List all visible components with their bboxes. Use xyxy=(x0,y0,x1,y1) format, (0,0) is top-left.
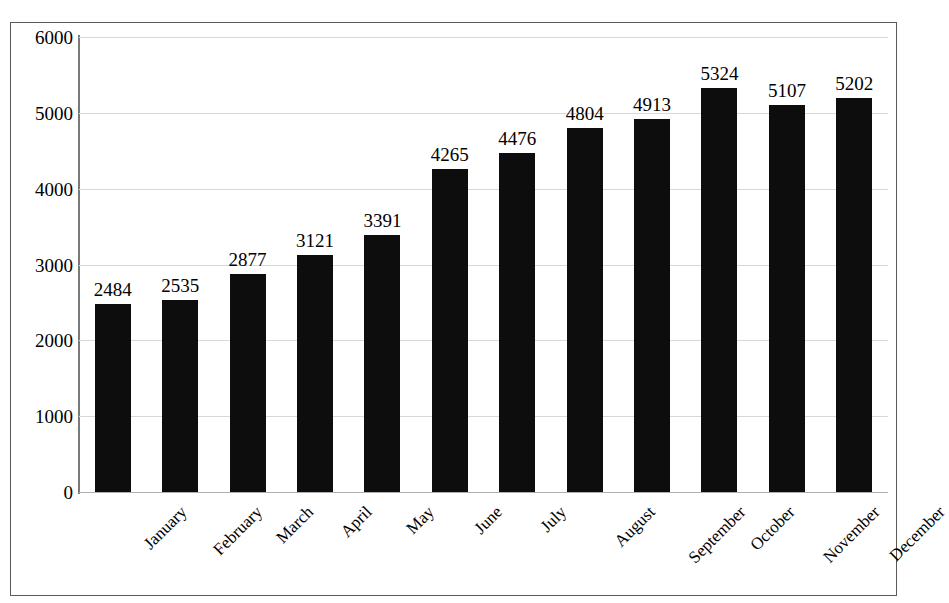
x-axis-tick-label: September xyxy=(685,503,748,566)
bar[interactable] xyxy=(95,304,131,492)
bar-value-label: 5107 xyxy=(768,81,806,100)
bar-value-label: 4804 xyxy=(566,104,604,123)
gridline xyxy=(79,265,888,266)
bar[interactable] xyxy=(567,128,603,492)
plot-area: 2484253528773121339142654476480449135324… xyxy=(79,37,888,492)
bar-value-label: 3391 xyxy=(363,211,401,230)
bar-value-label: 5324 xyxy=(700,64,738,83)
x-axis-tick-labels: JanuaryFebruaryMarchAprilMayJuneJulyAugu… xyxy=(79,497,888,593)
x-axis-tick-label: April xyxy=(337,503,374,540)
bar[interactable] xyxy=(364,235,400,492)
y-axis-tick-label: 4000 xyxy=(11,179,73,198)
x-axis-tick-label: December xyxy=(887,503,948,564)
bar[interactable] xyxy=(230,274,266,492)
gridline xyxy=(79,37,888,38)
bar-value-label: 4476 xyxy=(498,129,536,148)
bar[interactable] xyxy=(499,153,535,492)
gridline xyxy=(79,189,888,190)
x-axis-tick-label: May xyxy=(404,503,438,537)
bar-value-label: 2877 xyxy=(229,250,267,269)
bar-value-label: 4265 xyxy=(431,145,469,164)
chart-frame: 0100020003000400050006000 24842535287731… xyxy=(10,22,897,596)
x-axis-tick-label: June xyxy=(471,503,505,537)
bar[interactable] xyxy=(836,98,872,492)
y-axis-tick-label: 0 xyxy=(11,483,73,502)
bar-value-label: 2535 xyxy=(161,276,199,295)
bar[interactable] xyxy=(162,300,198,492)
bar-value-label: 4913 xyxy=(633,95,671,114)
y-axis-tick-label: 2000 xyxy=(11,331,73,350)
y-axis-tick-labels: 0100020003000400050006000 xyxy=(11,37,73,492)
bar[interactable] xyxy=(769,105,805,492)
bar-value-label: 2484 xyxy=(94,280,132,299)
x-axis-tick-label: November xyxy=(820,503,883,566)
gridline xyxy=(79,113,888,114)
x-axis-tick-label: October xyxy=(747,503,798,554)
gridline xyxy=(79,416,888,417)
bar[interactable] xyxy=(634,119,670,492)
bar[interactable] xyxy=(432,169,468,492)
x-axis-tick-label: August xyxy=(611,503,658,550)
x-axis-tick-label: July xyxy=(538,503,570,535)
x-axis-tick-label: January xyxy=(140,503,189,552)
x-axis-tick-label: February xyxy=(210,503,265,558)
bar[interactable] xyxy=(297,255,333,492)
y-axis-tick-label: 3000 xyxy=(11,255,73,274)
gridline xyxy=(79,340,888,341)
y-axis-tick-label: 1000 xyxy=(11,407,73,426)
bar-value-label: 3121 xyxy=(296,231,334,250)
bar[interactable] xyxy=(701,88,737,492)
gridline xyxy=(79,492,888,493)
x-axis-tick-label: March xyxy=(273,503,316,546)
chart-title-clipped xyxy=(0,0,909,16)
bar-value-label: 5202 xyxy=(835,74,873,93)
y-axis-tick-label: 5000 xyxy=(11,103,73,122)
y-axis-tick-label: 6000 xyxy=(11,28,73,47)
